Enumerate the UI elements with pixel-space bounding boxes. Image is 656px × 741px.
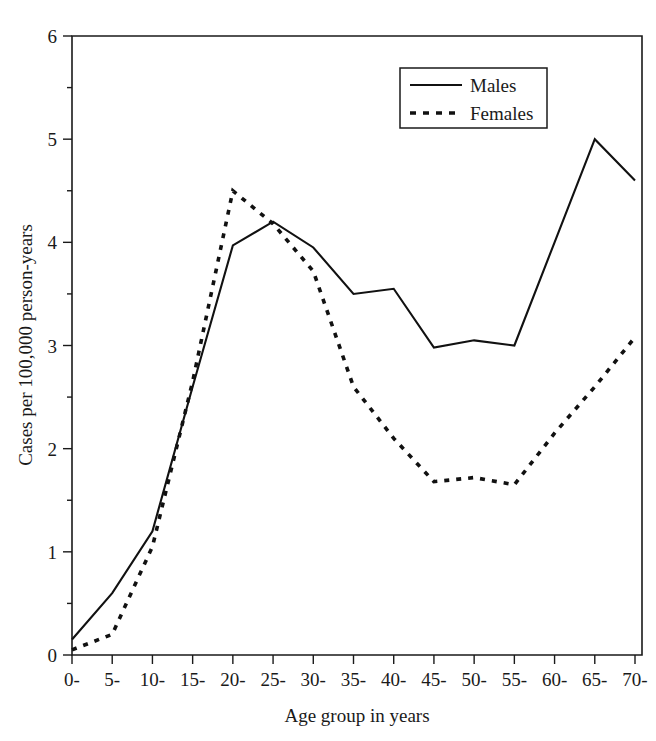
data-series-group (72, 139, 635, 650)
x-tick-label: 0- (64, 669, 80, 690)
y-tick-label: 2 (48, 439, 58, 460)
x-tick-label: 30- (301, 669, 326, 690)
plot-frame (72, 36, 642, 655)
x-tick-label: 60- (542, 669, 567, 690)
legend-label-females: Females (470, 103, 533, 124)
x-tick-label: 5- (104, 669, 120, 690)
x-tick-label: 45- (421, 669, 446, 690)
x-tick-label: 10- (140, 669, 165, 690)
y-tick-label: 3 (48, 336, 58, 357)
legend-label-males: Males (470, 75, 516, 96)
x-tick-label: 55- (502, 669, 527, 690)
x-axis-title: Age group in years (284, 705, 429, 726)
x-tick-label: 65- (582, 669, 607, 690)
series-line-females (72, 191, 635, 650)
y-tick-label: 1 (48, 542, 58, 563)
series-line-males (72, 139, 635, 639)
y-tick-label: 0 (48, 645, 58, 666)
y-tick-label: 4 (48, 232, 58, 253)
x-tick-label: 70- (622, 669, 647, 690)
y-tick-label: 6 (48, 26, 58, 47)
chart-figure: 0123456 0-5-10-15-20-25-30-35-40-45-50-5… (0, 0, 656, 741)
x-tick-label: 15- (180, 669, 205, 690)
y-axis-title: Cases per 100,000 person-years (15, 224, 36, 466)
y-axis-ticks (63, 36, 72, 655)
y-tick-label: 5 (48, 129, 58, 150)
x-tick-label: 20- (220, 669, 245, 690)
x-axis-ticks (72, 655, 635, 664)
x-axis-tick-labels: 0-5-10-15-20-25-30-35-40-45-50-55-60-65-… (64, 669, 648, 690)
y-axis-tick-labels: 0123456 (48, 26, 58, 666)
x-tick-label: 35- (341, 669, 366, 690)
x-tick-label: 50- (461, 669, 486, 690)
legend: Males Females (400, 68, 547, 128)
line-chart: 0123456 0-5-10-15-20-25-30-35-40-45-50-5… (0, 0, 656, 741)
x-tick-label: 40- (381, 669, 406, 690)
x-tick-label: 25- (260, 669, 285, 690)
